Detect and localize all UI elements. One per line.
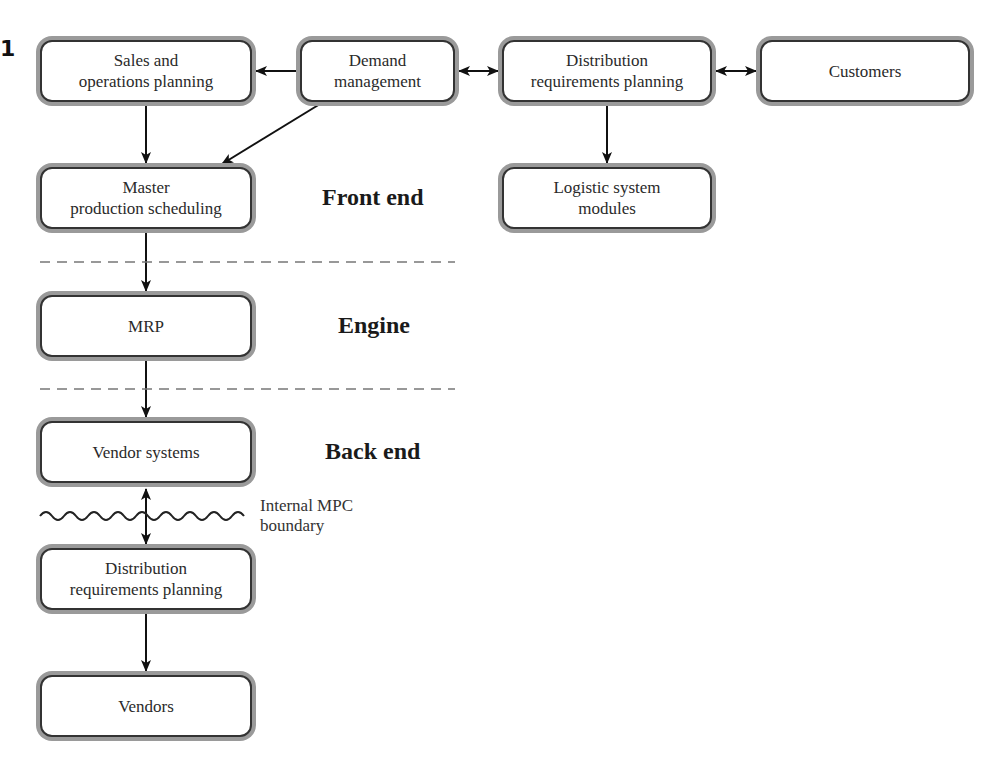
node-label: MRP <box>128 316 164 337</box>
mpc-boundary-label: Internal MPC boundary <box>260 496 353 536</box>
node-distribution-requirements-planning-bottom: Distributionrequirements planning <box>40 548 252 610</box>
node-label: modules <box>553 198 660 219</box>
region-label-back-end: Back end <box>325 438 420 465</box>
node-label: production scheduling <box>70 198 222 219</box>
node-label: Demand <box>334 50 421 71</box>
boundary-label-line2: boundary <box>260 516 353 536</box>
node-label: Customers <box>829 61 902 82</box>
node-vendors: Vendors <box>40 675 252 737</box>
node-label: Distribution <box>70 558 223 579</box>
node-label: Master <box>70 177 222 198</box>
mpc-boundary-wave <box>40 512 244 520</box>
node-logistic-system-modules: Logistic systemmodules <box>502 167 712 229</box>
node-label: management <box>334 71 421 92</box>
node-label: Logistic system <box>553 177 660 198</box>
node-sales-operations-planning: Sales andoperations planning <box>40 40 252 102</box>
node-label: Vendor systems <box>92 442 199 463</box>
region-label-engine: Engine <box>338 312 410 339</box>
node-distribution-requirements-planning-top: Distributionrequirements planning <box>502 40 712 102</box>
node-label: Vendors <box>118 696 174 717</box>
node-label: requirements planning <box>531 71 684 92</box>
boundary-label-line1: Internal MPC <box>260 496 353 516</box>
node-customers: Customers <box>760 40 970 102</box>
node-vendor-systems: Vendor systems <box>40 421 252 483</box>
node-label: Distribution <box>531 50 684 71</box>
node-master-production-scheduling: Masterproduction scheduling <box>40 167 252 229</box>
node-label: requirements planning <box>70 579 223 600</box>
figure-number: 1 <box>0 36 15 61</box>
node-demand-management: Demandmanagement <box>300 40 455 102</box>
region-label-front-end: Front end <box>322 184 424 211</box>
node-label: Sales and <box>79 50 214 71</box>
arrow-demand-to-mps <box>222 104 320 164</box>
node-mrp: MRP <box>40 295 252 357</box>
node-label: operations planning <box>79 71 214 92</box>
connector-layer <box>0 0 1000 778</box>
